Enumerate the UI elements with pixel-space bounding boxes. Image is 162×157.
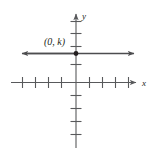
y-axis-label: y (81, 11, 86, 21)
coordinate-plane-svg: (0, k) y x (0, 0, 162, 157)
x-axis-label: x (141, 78, 146, 88)
y-intercept-point-marker (74, 51, 79, 56)
y-axis (71, 14, 82, 148)
coordinate-plane-figure: (0, k) y x (0, 0, 162, 157)
point-label-0-k: (0, k) (44, 36, 66, 48)
x-axis (11, 77, 136, 88)
